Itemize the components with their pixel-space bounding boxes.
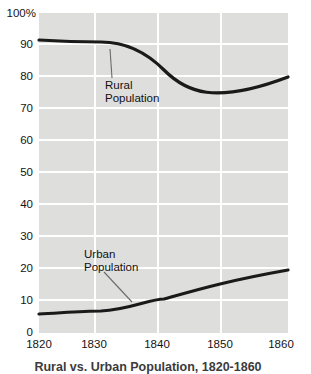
annotation-rural-line1: Rural	[105, 79, 159, 92]
annotation-urban-line2: Population	[84, 261, 138, 274]
annotation-rural-population: Rural Population	[105, 79, 159, 105]
y-tick-label-0: 0	[0, 326, 33, 338]
annotation-urban-population: Urban Population	[84, 248, 138, 274]
x-tick-label-1830: 1830	[64, 338, 124, 350]
y-tick-label-60: 60	[0, 134, 33, 146]
y-tick-label-50: 50	[0, 166, 33, 178]
y-tick-label-30: 30	[0, 230, 33, 242]
y-tick-label-20: 20	[0, 262, 33, 274]
y-tick-label-100: 100%	[0, 7, 36, 19]
x-tick-label-1850: 1850	[190, 338, 250, 350]
x-tick-label-1840: 1840	[127, 338, 187, 350]
x-tick-label-1820: 1820	[9, 338, 69, 350]
annotation-rural-line2: Population	[105, 92, 159, 105]
x-tick-label-1860: 1860	[251, 338, 311, 350]
y-tick-label-10: 10	[0, 294, 33, 306]
y-tick-label-40: 40	[0, 198, 33, 210]
y-tick-label-70: 70	[0, 102, 33, 114]
y-tick-label-80: 80	[0, 70, 33, 82]
annotation-urban-line1: Urban	[84, 248, 138, 261]
figure-caption: Rural vs. Urban Population, 1820-1860	[0, 361, 296, 374]
y-tick-label-90: 90	[0, 38, 33, 50]
